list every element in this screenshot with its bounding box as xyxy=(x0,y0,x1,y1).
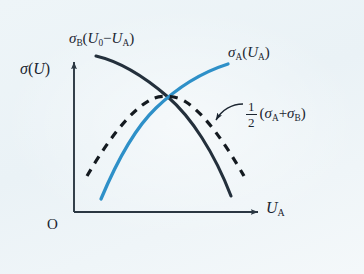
y-axis-label-sigma: σ xyxy=(20,60,28,77)
one-half-fraction: 1 2 xyxy=(246,100,257,129)
sigma-a-arg-symbol: U xyxy=(247,44,258,60)
y-axis-label-close: ) xyxy=(45,60,50,77)
axis-group xyxy=(74,62,258,212)
sigma-b-close-paren: ) xyxy=(129,30,134,46)
plot-canvas xyxy=(0,0,364,274)
half-sum-plus: + xyxy=(279,105,287,121)
y-axis-label-arg: U xyxy=(33,60,45,77)
sigma-b-arg2-symbol: U xyxy=(112,30,123,46)
sigma-b-minus: − xyxy=(103,30,111,46)
sigma-a-arg-subscript: A xyxy=(258,52,265,62)
y-axis-label: σ(U) xyxy=(20,61,50,77)
half-sum-second-symbol: σ xyxy=(287,105,294,121)
curve-label-half-sum: 1 2 (σA+σB) xyxy=(246,100,306,129)
curve-label-sigma-b: σB(U0−UA) xyxy=(69,31,134,48)
x-axis-label-symbol: U xyxy=(266,199,278,216)
sigma-b-arg-symbol: U xyxy=(88,30,99,46)
half-sum-first-subscript: A xyxy=(272,113,279,123)
curve-half-sum xyxy=(87,96,244,176)
fraction-numerator: 1 xyxy=(246,100,257,114)
fraction-denominator: 2 xyxy=(246,115,257,129)
x-axis-label: UA xyxy=(266,200,285,218)
curve-label-sigma-a: σA(UA) xyxy=(228,45,270,62)
half-sum-close-paren: ) xyxy=(301,105,306,121)
origin-label: O xyxy=(47,217,58,232)
figure-container: σ(U) σB(U0−UA) σA(UA) 1 2 (σA+σB) UA O xyxy=(0,0,364,274)
sigma-a-close-paren: ) xyxy=(265,44,270,60)
annotation-leader-arrow xyxy=(216,104,243,120)
half-sum-expression: (σA+σB) xyxy=(260,106,306,123)
curve-sigma-a xyxy=(101,64,228,199)
x-axis-label-subscript: A xyxy=(278,207,285,218)
half-sum-first-symbol: σ xyxy=(265,105,272,121)
